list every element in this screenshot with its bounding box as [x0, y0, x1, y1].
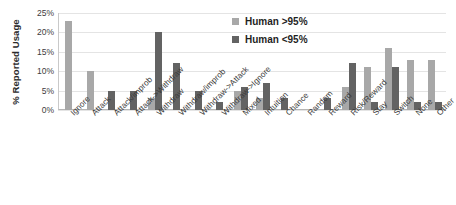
y-axis-tick-labels: 25%20%15%10%5%0% — [14, 13, 54, 110]
legend-label: Human <95% — [245, 34, 308, 45]
bar-group — [381, 13, 403, 110]
legend-item: Human <95% — [232, 34, 308, 45]
bar — [65, 21, 72, 110]
y-axis-tick-label: 15% — [14, 48, 54, 56]
y-axis-tick-label: 5% — [14, 87, 54, 95]
legend-swatch-icon — [232, 36, 239, 43]
chart-legend: Human >95%Human <95% — [232, 16, 308, 52]
y-axis-tick-label: 25% — [14, 9, 54, 17]
bar — [385, 48, 392, 110]
y-axis-tick-label: 20% — [14, 28, 54, 36]
y-axis-tick-label: 10% — [14, 67, 54, 75]
y-axis-tick-label: 0% — [14, 106, 54, 114]
bar-chart: % Reported Usage 25%20%15%10%5%0% Ignore… — [0, 0, 456, 205]
legend-swatch-icon — [232, 18, 239, 25]
bar-group — [58, 13, 80, 110]
legend-label: Human >95% — [245, 16, 308, 27]
x-axis-tick-labels: IgnoreAttackAttack/improbAttack->Withdra… — [58, 111, 446, 205]
legend-item: Human >95% — [232, 16, 308, 27]
bar-group — [425, 13, 447, 110]
